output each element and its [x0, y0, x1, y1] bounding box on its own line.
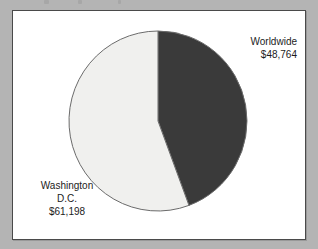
cut-off-text-fragment [44, 0, 49, 4]
pie-label-worldwide-name: Worldwide [251, 35, 298, 48]
pie-label-washington-name-line2: D.C. [19, 192, 115, 205]
chart-frame: Worldwide $48,764 Washington D.C. $61,19… [12, 10, 306, 240]
pie-label-washington: Washington D.C. $61,198 [19, 179, 115, 218]
pie-label-worldwide: Worldwide $48,764 [251, 35, 298, 61]
pie-label-washington-name-line1: Washington [19, 179, 115, 192]
scanned-page: Worldwide $48,764 Washington D.C. $61,19… [0, 0, 318, 249]
cut-off-text-fragment [78, 0, 82, 4]
pie-label-worldwide-value: $48,764 [251, 48, 298, 61]
pie-label-washington-value: $61,198 [19, 205, 115, 218]
cut-off-text-fragment [118, 0, 121, 4]
